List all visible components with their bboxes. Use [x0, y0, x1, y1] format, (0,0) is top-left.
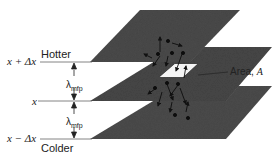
label-lambda-mfp-upper: λmfp: [66, 80, 83, 92]
label-colder: Colder: [41, 143, 73, 154]
area-text: Area,: [230, 66, 257, 77]
mean-free-path-diagram: [0, 0, 273, 159]
label-x-minus-dx: x − Δx: [7, 133, 36, 144]
label-x-plus-dx: x + Δx: [7, 56, 36, 67]
label-area: Area, A: [230, 67, 263, 77]
label-x: x: [32, 96, 37, 107]
area-symbol: A: [257, 66, 263, 77]
lambda-subscript: mfp: [71, 122, 83, 129]
lambda-subscript: mfp: [71, 85, 83, 92]
label-hotter: Hotter: [41, 49, 71, 60]
label-lambda-mfp-lower: λmfp: [66, 117, 83, 129]
